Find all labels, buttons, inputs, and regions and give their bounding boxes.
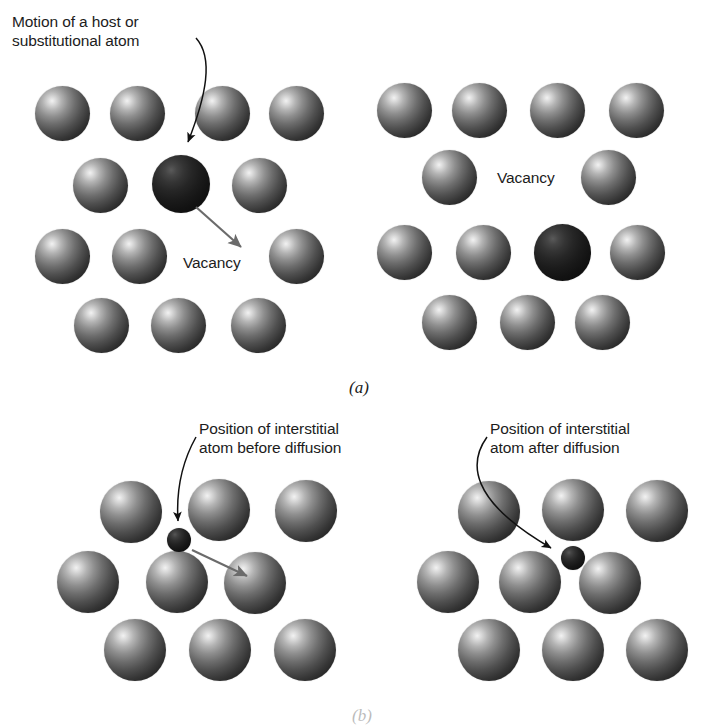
- host-atom: [609, 83, 664, 138]
- host-atom: [581, 150, 636, 205]
- host-atom: [575, 295, 630, 350]
- host-atom: [542, 479, 604, 541]
- vacancy-label-left: Vacancy: [183, 253, 241, 272]
- host-atom: [417, 551, 479, 613]
- host-atom: [579, 552, 641, 614]
- host-atom: [189, 619, 251, 681]
- interstitial-atom: [561, 546, 585, 570]
- panel-a-caption: (a): [349, 378, 369, 398]
- host-atom: [269, 86, 324, 141]
- host-atom: [274, 619, 336, 681]
- host-atom: [422, 295, 477, 350]
- host-atom: [73, 158, 128, 213]
- panel-b-caption: (b): [352, 706, 372, 726]
- host-atom: [74, 298, 129, 353]
- host-atom: [610, 225, 665, 280]
- host-atom: [195, 86, 250, 141]
- host-atom: [534, 224, 591, 281]
- host-atom: [188, 479, 250, 541]
- motion-of-host-atom-label: Motion of a host or substitutional atom: [12, 12, 217, 50]
- arrow-atom-to-vacancy: [196, 207, 241, 247]
- vacancy-label-right: Vacancy: [497, 168, 555, 187]
- host-atom: [112, 229, 167, 284]
- host-atom: [377, 225, 432, 280]
- host-atom: [269, 229, 324, 284]
- host-atom: [35, 86, 90, 141]
- host-atom: [626, 480, 688, 542]
- host-atom: [151, 298, 206, 353]
- host-atom: [456, 225, 511, 280]
- host-atom: [499, 551, 561, 613]
- host-atom: [232, 158, 287, 213]
- host-atom: [458, 481, 520, 543]
- host-atom: [422, 150, 477, 205]
- host-atom: [35, 229, 90, 284]
- host-atom: [626, 619, 688, 681]
- interstitial-before-label: Position of interstitial atom before dif…: [199, 419, 414, 457]
- host-atom: [110, 86, 165, 141]
- host-atom: [152, 155, 210, 213]
- host-atom: [224, 552, 286, 614]
- host-atom: [530, 83, 585, 138]
- interstitial-after-label: Position of interstitial atom after diff…: [490, 419, 705, 457]
- host-atom: [104, 619, 166, 681]
- host-atom: [500, 295, 555, 350]
- host-atom: [377, 83, 432, 138]
- host-atom: [458, 619, 520, 681]
- interstitial-atom: [167, 528, 191, 552]
- host-atom: [231, 298, 286, 353]
- host-atom: [57, 551, 119, 613]
- host-atom: [452, 83, 507, 138]
- host-atom: [100, 481, 162, 543]
- host-atom: [146, 551, 208, 613]
- host-atom: [275, 480, 337, 542]
- host-atom: [542, 619, 604, 681]
